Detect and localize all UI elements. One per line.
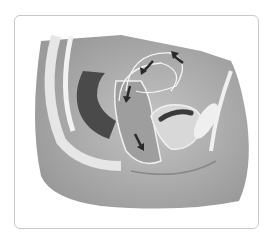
pelvis-cross-section-illustration	[15, 16, 258, 228]
illustration-frame	[14, 15, 259, 229]
